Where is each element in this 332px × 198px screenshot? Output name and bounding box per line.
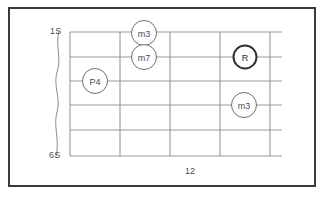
note-marker-p4-string3[interactable]: P4 [83, 69, 108, 94]
note-marker-m7-string2[interactable]: m7 [132, 45, 157, 70]
note-marker-label: P4 [89, 77, 100, 87]
root-marker-label: R [242, 53, 249, 63]
note-marker-label: m3 [238, 101, 251, 111]
fret-position-label: 12 [160, 166, 220, 176]
note-marker-m3-string4[interactable]: m3 [232, 93, 257, 118]
top-string-label: 1S [50, 26, 61, 36]
nut-brace [56, 31, 59, 156]
note-marker-label: m3 [138, 29, 151, 39]
note-marker-root-string2[interactable]: R [234, 46, 257, 69]
note-marker-label: m7 [138, 53, 151, 63]
bottom-string-label: 6S [49, 150, 60, 160]
fretboard-diagram: m3 m7 P4 R m3 1S 6S 12 [0, 0, 332, 198]
note-marker-m3-string1[interactable]: m3 [132, 21, 157, 46]
